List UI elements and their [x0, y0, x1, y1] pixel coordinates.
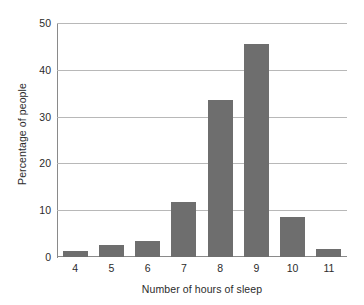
gridline	[57, 163, 347, 164]
x-axis-tick-label: 5	[108, 262, 114, 274]
gridline	[57, 210, 347, 211]
bar	[171, 202, 196, 257]
y-axis-tick-label: 30	[5, 111, 51, 123]
bar-chart: Percentage of people 01020304050 4567891…	[0, 0, 364, 305]
x-axis-title: Number of hours of sleep	[57, 283, 347, 295]
x-axis-tick-label: 11	[323, 262, 334, 274]
y-axis-tick-label: 10	[5, 204, 51, 216]
x-axis-tick-label: 10	[287, 262, 299, 274]
y-axis-tick-label: 20	[5, 157, 51, 169]
y-axis-tick-label: 0	[5, 251, 51, 263]
gridline	[57, 23, 347, 24]
x-axis-tick-label: 4	[72, 262, 78, 274]
x-axis-tick-label: 9	[253, 262, 259, 274]
bar	[244, 44, 269, 257]
bar	[63, 251, 88, 257]
x-axis-tick-label: 7	[181, 262, 187, 274]
x-axis-tick-label: 8	[217, 262, 223, 274]
y-axis-tick-labels: 01020304050	[0, 23, 51, 257]
y-axis-tick-label: 50	[5, 17, 51, 29]
y-axis-tick-label: 40	[5, 64, 51, 76]
gridline	[57, 117, 347, 118]
plot-area	[57, 23, 347, 257]
bar	[316, 249, 341, 257]
bar	[280, 217, 305, 257]
bar	[99, 245, 124, 257]
bar	[135, 241, 160, 257]
x-axis-tick-label: 6	[145, 262, 151, 274]
x-axis-tick-labels: 4567891011	[57, 262, 347, 278]
gridline	[57, 70, 347, 71]
bar	[208, 100, 233, 257]
